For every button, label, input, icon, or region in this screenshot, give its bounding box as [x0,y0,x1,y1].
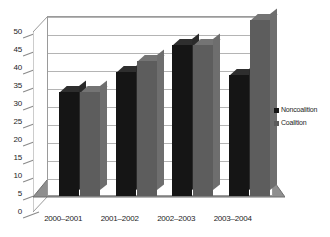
bar-front-face [59,92,79,196]
bar-front-face [116,72,136,196]
bar-front-face [137,61,157,196]
bar-group [104,16,161,196]
bar-group [160,16,217,196]
legend-label: Coalition [281,119,306,127]
bar-front-face [80,92,100,196]
x-axis: 2000–20012001–20022002–20032003–2004 [0,214,290,230]
bar-coalition-2002–2003 [193,45,213,196]
x-tick-label: 2001–2002 [101,214,139,223]
y-tick-label: 15 [14,154,23,162]
bar-noncoalition-2003–2004 [229,75,249,196]
y-tick-label: 25 [14,118,23,126]
bar-front-face [229,75,249,196]
bar-coalition-2003–2004 [250,20,270,196]
bar-coalition-2001–2002 [137,61,157,196]
legend: NoncoalitionCoalition [274,106,330,132]
bar-front-face [250,20,270,196]
y-tick-label: 30 [14,100,23,108]
bar-chart: 05101520253035404550 2000–20012001–20022… [0,0,330,237]
bar-noncoalition-2001–2002 [116,72,136,196]
y-tick-label: 50 [14,28,23,36]
bar-side-face [270,8,277,190]
y-tick-label: 45 [14,46,23,54]
bar-group [47,16,104,196]
x-tick-label: 2000–2001 [44,214,82,223]
legend-swatch-icon [274,121,279,126]
x-tick-label: 2003–2004 [214,214,252,223]
y-tick-label: 35 [14,82,23,90]
bar-coalition-2000–2001 [80,92,100,196]
bar-front-face [172,45,192,196]
bar-front-face [193,45,213,196]
bar-noncoalition-2002–2003 [172,45,192,196]
y-tick-label: 40 [14,64,23,72]
x-tick-label: 2002–2003 [157,214,195,223]
y-tick-label: 5 [18,190,22,198]
legend-item-noncoalition: Noncoalition [274,106,330,114]
legend-swatch-icon [274,108,279,113]
legend-item-coalition: Coalition [274,119,330,127]
bars-layer [47,16,273,196]
bar-group [217,16,274,196]
y-tick-label: 20 [14,136,23,144]
y-tick-label: 10 [14,172,23,180]
bar-noncoalition-2000–2001 [59,92,79,196]
legend-label: Noncoalition [281,106,317,114]
